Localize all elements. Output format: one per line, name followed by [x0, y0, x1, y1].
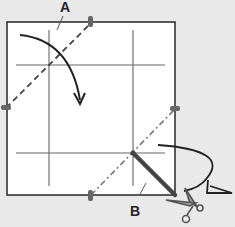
label-b: B [130, 203, 140, 219]
label-a: A [60, 0, 70, 15]
turn-arrowhead-icon [207, 180, 232, 193]
origami-diagram [0, 0, 235, 227]
